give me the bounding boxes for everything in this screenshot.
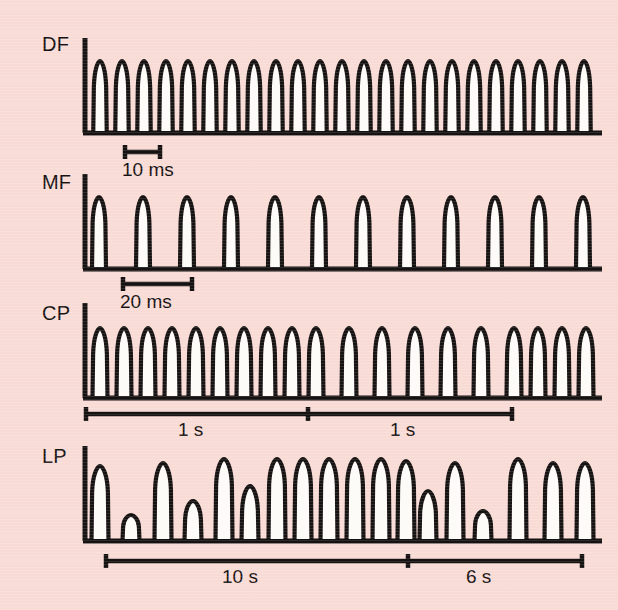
scalebar-label-lp-left: 10 s (222, 567, 258, 586)
trace-waveform-lp (0, 0, 618, 610)
pulse-train-figure: DF 10 ms MF 20 ms CP 1 s 1 s LP 10 s 6 s (0, 0, 618, 610)
scalebar-label-lp-right: 6 s (466, 567, 491, 586)
